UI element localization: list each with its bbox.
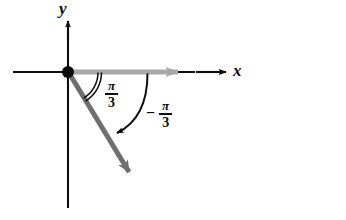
terminal-side-arrow xyxy=(69,73,129,172)
negative-angle-arrow xyxy=(117,74,148,134)
negative-angle-numerator: π xyxy=(161,99,170,113)
negative-angle-label: − π 3 xyxy=(146,99,172,130)
y-axis-label: y xyxy=(59,0,67,17)
positive-angle-denominator: 3 xyxy=(107,95,116,110)
negative-angle-denominator: 3 xyxy=(161,115,170,130)
positive-angle-numerator: π xyxy=(107,79,116,93)
positive-angle-label: π 3 xyxy=(105,79,118,110)
figure-canvas xyxy=(0,0,346,220)
negative-angle-arc xyxy=(117,74,148,134)
x-axis-label: x xyxy=(233,62,242,79)
origin-point xyxy=(62,66,74,78)
negative-angle-sign: − xyxy=(146,105,155,121)
positive-angle-arc-inner xyxy=(84,73,98,99)
positive-angle-arc xyxy=(84,73,102,102)
terminal-side-ray xyxy=(69,73,129,172)
negative-angle-fraction: π 3 xyxy=(159,99,172,130)
coterminal-angle-figure: y x π 3 − π 3 xyxy=(0,0,346,220)
